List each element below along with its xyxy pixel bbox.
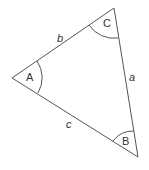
vertex-label-c: C [103,17,111,29]
vertex-label-a: A [26,71,34,83]
triangle-diagram: A B C a b c [0,0,149,170]
side-label-b: b [57,32,63,44]
side-label-a: a [129,71,135,83]
vertex-label-b: B [122,135,129,147]
side-label-c: c [66,118,72,130]
angle-arc-a [37,61,42,93]
